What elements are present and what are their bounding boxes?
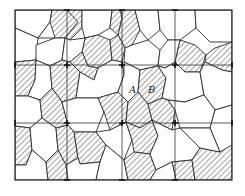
label-b: B (147, 84, 155, 95)
label-a: A (128, 84, 136, 95)
grains (15, 10, 232, 180)
grain (135, 10, 160, 40)
grain (82, 10, 112, 38)
grain-diagram: A B (0, 0, 245, 196)
grain (195, 10, 232, 42)
grain (158, 10, 196, 40)
